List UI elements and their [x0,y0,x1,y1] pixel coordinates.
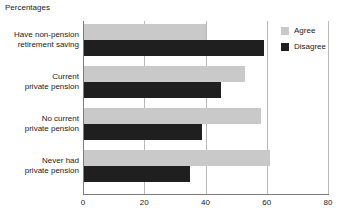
percentages-bar-chart: Percentages Have non-pensionretirement s… [0,0,343,220]
category-label-1-line-0: Current [1,72,79,82]
chart-title: Percentages [5,3,50,13]
legend-item-disagree[interactable]: Disagree [281,40,341,53]
bar-disagree-group-0 [83,40,264,56]
gridline-60 [267,21,268,194]
x-tick-label-0: 0 [81,198,85,208]
x-tick-label-20: 20 [140,198,149,208]
legend-label-agree: Agree [294,26,315,36]
category-label-0-line-1: retirement saving [1,40,79,50]
category-label-2: No currentprivate pension [1,114,79,134]
category-label-0: Have non-pensionretirement saving [1,30,79,50]
bar-agree-group-2 [83,108,261,124]
category-label-2-line-1: private pension [1,124,79,134]
x-tick-label-60: 60 [262,198,271,208]
legend-swatch-disagree-icon [281,43,289,51]
x-tick-label-40: 40 [201,198,210,208]
bar-disagree-group-1 [83,82,221,98]
category-label-3-line-1: private pension [1,166,79,176]
x-axis-line [83,194,329,195]
category-label-2-line-0: No current [1,114,79,124]
legend-label-disagree: Disagree [294,42,326,52]
bar-agree-group-3 [83,150,270,166]
y-axis-line [83,21,84,195]
x-tick-label-80: 80 [324,198,333,208]
x-axis-tick-labels: 020406080 [0,198,343,212]
category-label-1: Currentprivate pension [1,72,79,92]
bar-disagree-group-3 [83,166,190,182]
bar-agree-group-0 [83,24,206,40]
bar-agree-group-1 [83,66,245,82]
legend-swatch-agree-icon [281,27,289,35]
chart-legend: AgreeDisagree [281,24,341,56]
category-label-3: Never hadprivate pension [1,156,79,176]
category-label-0-line-0: Have non-pension [1,30,79,40]
category-label-3-line-0: Never had [1,156,79,166]
legend-item-agree[interactable]: Agree [281,24,341,37]
category-axis-labels: Have non-pensionretirement savingCurrent… [0,21,79,194]
bar-disagree-group-2 [83,124,202,140]
category-label-1-line-1: private pension [1,82,79,92]
